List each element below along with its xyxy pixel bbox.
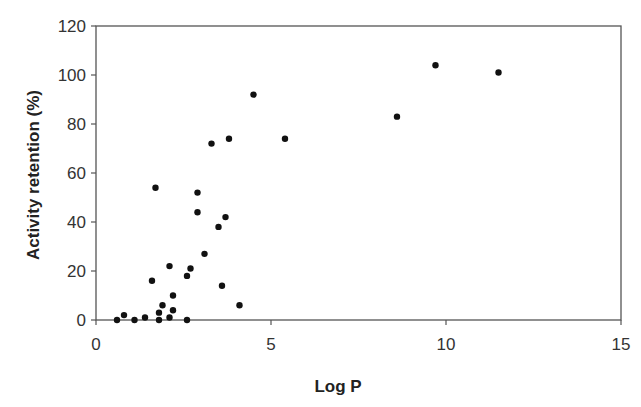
data-point [149, 278, 155, 284]
y-tick-label: 80 [67, 115, 86, 134]
data-point [156, 309, 162, 315]
x-tick-label: 0 [91, 335, 100, 354]
x-tick-label: 10 [437, 335, 456, 354]
data-point [184, 273, 190, 279]
data-point [121, 312, 127, 318]
y-tick-label: 40 [67, 213, 86, 232]
data-point [156, 317, 162, 323]
data-point [432, 62, 438, 68]
data-points [114, 62, 502, 323]
data-point [194, 209, 200, 215]
data-point [166, 314, 172, 320]
x-tick-label: 5 [266, 335, 275, 354]
data-point [250, 91, 256, 97]
plot-border [96, 26, 621, 320]
data-point [152, 185, 158, 191]
x-axis-title: Log P [314, 377, 361, 396]
y-tick-label: 0 [77, 311, 86, 330]
scatter-chart: 020406080100120 051015 Log P Activity re… [0, 0, 641, 407]
data-point [226, 136, 232, 142]
y-axis-ticks: 020406080100120 [58, 17, 96, 330]
y-tick-label: 20 [67, 262, 86, 281]
data-point [170, 292, 176, 298]
data-point [215, 224, 221, 230]
data-point [495, 69, 501, 75]
data-point [184, 317, 190, 323]
data-point [170, 307, 176, 313]
x-tick-label: 15 [612, 335, 631, 354]
data-point [114, 317, 120, 323]
data-point [142, 314, 148, 320]
data-point [236, 302, 242, 308]
data-point [187, 265, 193, 271]
data-point [394, 113, 400, 119]
plot-frame [96, 26, 621, 320]
x-axis-ticks: 051015 [91, 320, 630, 354]
data-point [219, 283, 225, 289]
data-point [282, 136, 288, 142]
data-point [159, 302, 165, 308]
data-point [194, 189, 200, 195]
data-point [166, 263, 172, 269]
data-point [201, 251, 207, 257]
data-point [222, 214, 228, 220]
data-point [131, 317, 137, 323]
y-tick-label: 120 [58, 17, 86, 36]
y-axis-title: Activity retention (%) [24, 90, 43, 260]
y-tick-label: 60 [67, 164, 86, 183]
y-tick-label: 100 [58, 66, 86, 85]
data-point [208, 140, 214, 146]
